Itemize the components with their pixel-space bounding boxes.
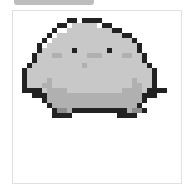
header-tab bbox=[14, 0, 94, 5]
bird-sprite-icon bbox=[22, 18, 167, 118]
